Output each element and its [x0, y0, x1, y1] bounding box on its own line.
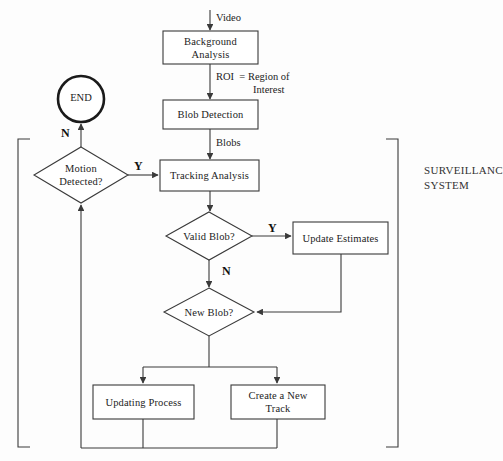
process-create-new-track-shape — [231, 385, 325, 419]
group-label-surveillance-system: SURVEILLANCE SYSTEM — [424, 163, 502, 193]
terminator-end-label: END — [59, 92, 103, 103]
flowchart-canvas: END Background Analysis Blob Detection T… — [0, 0, 503, 461]
edge-label-blobs: Blobs — [216, 136, 241, 149]
decision-valid-blob-shape — [166, 212, 252, 260]
decision-motion-detected-shape — [34, 147, 128, 203]
process-update-estimates-shape — [293, 222, 388, 254]
process-blob-detection-shape — [163, 100, 258, 129]
branch-label-motion-yes: Y — [134, 160, 143, 173]
decision-new-blob-shape — [164, 288, 254, 336]
edge-label-video: Video — [216, 11, 241, 24]
process-tracking-analysis-shape — [160, 160, 259, 191]
bracket-left — [18, 139, 30, 447]
branch-label-valid-blob-no: N — [222, 265, 231, 278]
branch-label-motion-no: N — [61, 127, 70, 140]
branch-label-valid-blob-yes: Y — [268, 222, 277, 235]
edge-label-roi-line1: ROI = Region of — [216, 70, 290, 83]
edge-update-estimates-to-new-blob — [257, 254, 341, 312]
process-background-analysis-shape — [163, 31, 258, 64]
process-updating-process-shape — [93, 385, 194, 419]
edge-label-roi-line2: Interest — [253, 83, 285, 96]
bracket-right — [386, 139, 398, 447]
